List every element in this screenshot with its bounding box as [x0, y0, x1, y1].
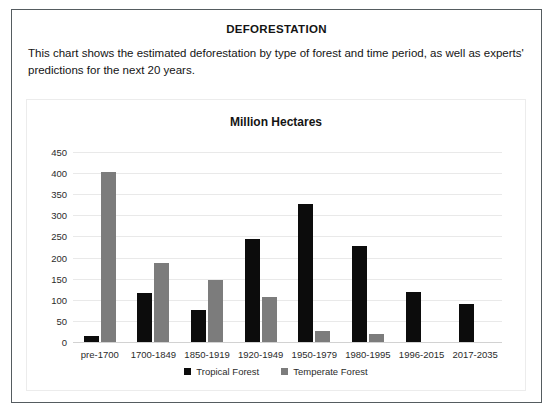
y-tick-label: 250 — [51, 231, 67, 242]
document-card: DEFORESTATION This chart shows the estim… — [11, 9, 542, 403]
bar-temperate[interactable] — [369, 334, 384, 342]
gridline-0 — [73, 342, 502, 343]
bar-tropical[interactable] — [459, 304, 474, 342]
legend-item[interactable]: Tropical Forest — [184, 366, 259, 377]
bar-group: pre-1700 — [73, 152, 127, 342]
bar-tropical[interactable] — [406, 292, 421, 342]
bar-groups: pre-17001700-18491850-19191920-19491950-… — [73, 152, 502, 342]
bar-temperate[interactable] — [208, 280, 223, 342]
bar-group: 2017-2035 — [448, 152, 502, 342]
y-tick-label: 450 — [51, 147, 67, 158]
y-tick-label: 400 — [51, 168, 67, 179]
bar-tropical[interactable] — [191, 310, 206, 342]
x-tick-label: 1996-2015 — [399, 349, 444, 360]
bar-group: 1920-1949 — [234, 152, 288, 342]
bar-group: 1996-2015 — [395, 152, 449, 342]
x-tick-label: 1850-1919 — [184, 349, 229, 360]
x-tick-label: 1700-1849 — [131, 349, 176, 360]
bar-group: 1850-1919 — [180, 152, 234, 342]
x-tick-label: 1920-1949 — [238, 349, 283, 360]
x-tick-label: 1980-1995 — [345, 349, 390, 360]
legend-label: Tropical Forest — [196, 366, 259, 377]
bar-group: 1980-1995 — [341, 152, 395, 342]
x-tick-label: 1950-1979 — [292, 349, 337, 360]
page-title: DEFORESTATION — [12, 23, 541, 35]
bar-group: 1700-1849 — [127, 152, 181, 342]
bar-tropical[interactable] — [245, 239, 260, 342]
bar-temperate[interactable] — [154, 263, 169, 342]
chart-title: Million Hectares — [27, 115, 525, 129]
legend-label: Temperate Forest — [293, 366, 367, 377]
x-tick-label: pre-1700 — [81, 349, 119, 360]
y-tick-label: 200 — [51, 252, 67, 263]
bar-tropical[interactable] — [298, 204, 313, 342]
legend-swatch-icon — [184, 368, 191, 375]
legend-swatch-icon — [281, 368, 288, 375]
chart-panel: Million Hectares 45040035030025020015010… — [26, 99, 526, 391]
bar-temperate[interactable] — [101, 172, 116, 342]
y-tick-label: 350 — [51, 189, 67, 200]
chart-plot-area: 450400350300250200150100500 pre-17001700… — [73, 152, 502, 342]
bar-tropical[interactable] — [84, 336, 99, 342]
y-tick-label: 50 — [56, 315, 67, 326]
x-tick-label: 2017-2035 — [452, 349, 497, 360]
document-description: This chart shows the estimated deforesta… — [28, 45, 525, 79]
y-tick-label: 100 — [51, 294, 67, 305]
bar-temperate[interactable] — [315, 331, 330, 342]
chart-legend: Tropical ForestTemperate Forest — [27, 366, 525, 377]
bar-tropical[interactable] — [137, 293, 152, 342]
legend-item[interactable]: Temperate Forest — [281, 366, 367, 377]
y-tick-label: 0 — [62, 337, 67, 348]
y-tick-label: 300 — [51, 210, 67, 221]
bar-temperate[interactable] — [262, 297, 277, 342]
bar-group: 1950-1979 — [288, 152, 342, 342]
y-tick-label: 150 — [51, 273, 67, 284]
bar-tropical[interactable] — [352, 246, 367, 342]
